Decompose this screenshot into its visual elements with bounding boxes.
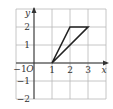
coordinate-diagram: −1123xO21−1−2y [0,0,113,109]
y-tick-label: −2 [17,94,30,104]
y-tick-label: 1 [24,40,30,50]
x-tick-label: −1 [13,64,26,74]
y-tick-label: 2 [24,22,30,32]
x-tick-label: 3 [85,65,91,75]
origin-label: O [26,64,34,74]
x-tick-label: 2 [67,65,73,75]
y-axis-arrow-icon [32,7,37,13]
x-tick-label: 1 [49,65,55,75]
y-tick-label: −1 [17,76,30,86]
x-axis-label: x [101,65,106,75]
y-axis-label: y [24,8,31,18]
